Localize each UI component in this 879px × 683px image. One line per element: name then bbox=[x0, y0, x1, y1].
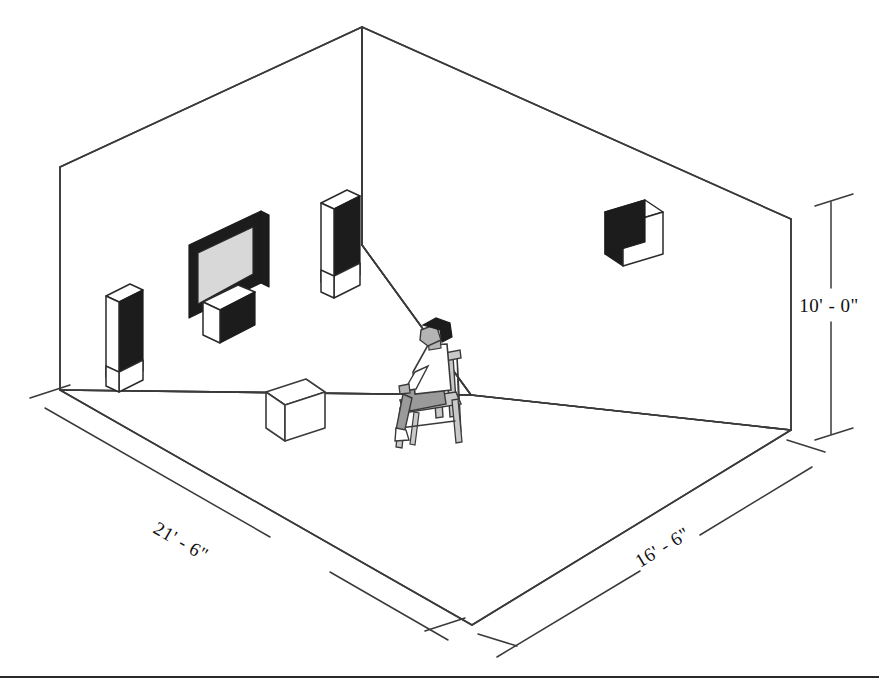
edge-floor-back-right bbox=[471, 395, 791, 430]
drawing-canvas: .ln { fill:none; stroke:#3a3a3a; stroke-… bbox=[0, 0, 879, 683]
dimension-room-height: 10' - 0" bbox=[799, 194, 859, 440]
listener-hand bbox=[399, 384, 410, 394]
dimension-room-length-label: 21' - 6" bbox=[150, 517, 212, 565]
seated-listener bbox=[395, 318, 462, 448]
listener-shoe bbox=[395, 428, 409, 441]
edge-ceiling-right bbox=[362, 27, 791, 219]
subwoofer[interactable] bbox=[266, 379, 325, 441]
dimension-room-depth: 16' - 6" bbox=[478, 440, 825, 657]
listener-torso bbox=[413, 344, 451, 394]
surround-right-speaker[interactable] bbox=[605, 200, 663, 266]
edge-floor-front-right bbox=[472, 430, 791, 625]
front-left-tower-speaker[interactable] bbox=[106, 284, 143, 392]
chair-rear-leg bbox=[410, 412, 419, 445]
dimension-room-depth-label: 16' - 6" bbox=[631, 523, 693, 572]
figure-caption bbox=[0, 676, 879, 683]
front-right-tower-speaker[interactable] bbox=[321, 190, 360, 298]
isometric-room-drawing: .ln { fill:none; stroke:#3a3a3a; stroke-… bbox=[0, 0, 879, 683]
dimension-room-height-label: 10' - 0" bbox=[799, 295, 859, 316]
edge-ceiling-left bbox=[60, 27, 362, 167]
